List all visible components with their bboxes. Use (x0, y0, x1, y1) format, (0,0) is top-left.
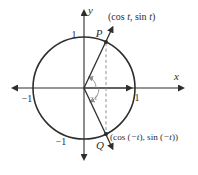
x-axis-label: x (173, 70, 179, 82)
p-coords-suffix: ) (152, 11, 155, 23)
point-q-label: Q (96, 139, 104, 151)
tick-1-x: 1 (135, 92, 140, 103)
p-coordinates-label: (cos t, sin t) (108, 11, 155, 23)
point-p-dot (104, 40, 108, 44)
tick-neg1-y: −1 (56, 136, 67, 147)
q-coords-prefix: (cos ( (110, 132, 131, 142)
tick-1-y: 1 (72, 29, 77, 40)
angle-neg-t-label: −t (89, 92, 98, 102)
q-coordinates-label: (cos (−t), sin (−t)) (110, 132, 178, 142)
tick-neg1-x: −1 (22, 93, 33, 104)
unit-circle-figure: y x 1 1 −1 −1 P Q t −t (cos t, sin t) (c… (0, 0, 198, 175)
point-p-label: P (95, 27, 103, 39)
p-coords-mid: , sin (130, 11, 149, 22)
point-q-dot (104, 132, 108, 136)
q-coords-suffix: )) (172, 132, 178, 142)
p-coords-prefix: (cos (108, 11, 127, 23)
y-axis-label: y (87, 4, 93, 16)
q-coords-mid: ), sin ( (139, 132, 163, 142)
